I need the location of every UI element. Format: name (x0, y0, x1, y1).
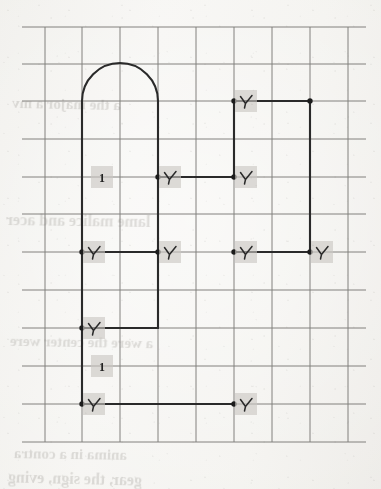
highlight-box-tick-beam-far-right (311, 241, 333, 263)
highlight-box-tick-lower-left (83, 317, 105, 339)
scanned-page: a the major a mv lame malice and acer a … (0, 0, 381, 489)
highlight-box-tick-beam-inner (159, 241, 181, 263)
grid-layer (22, 27, 366, 442)
highlight-box-tick-beam-right-inner (235, 241, 257, 263)
unit-label-upper: 1 (99, 171, 105, 185)
highlight-box-tick-mid-upper-right (235, 166, 257, 188)
highlight-box-tick-top-right (235, 90, 257, 112)
highlight-box-tick-beam-left (83, 241, 105, 263)
vertex-top-right-right (307, 98, 312, 103)
figure-canvas: 11 (0, 0, 381, 489)
unit-label-lower: 1 (99, 360, 105, 374)
highlight-box-tick-base-right (235, 393, 257, 415)
highlight-box-tick-base-left (83, 393, 105, 415)
highlight-box-tick-mid-inner-right (159, 166, 181, 188)
